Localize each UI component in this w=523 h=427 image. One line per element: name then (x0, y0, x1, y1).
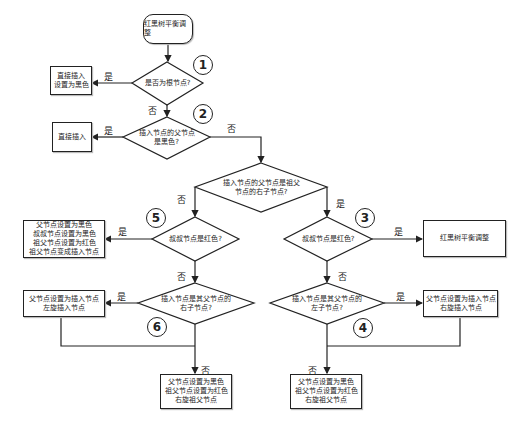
action-rotate-grandparent-right-branch: 父节点设置为黑色 祖父节点设置为红色 右旋祖父节点 (290, 374, 362, 409)
action-a5-line4: 祖父节点变成插入节点 (29, 248, 99, 257)
action-aL-line3: 右旋祖父节点 (175, 396, 217, 405)
action-a4-line2: 右旋插入节点 (440, 304, 482, 313)
action-a5-line2: 叔叔节点设置为黑色 (33, 230, 96, 239)
action-aR-line2: 祖父节点设置为红色 (295, 387, 358, 396)
step-marker-3: 3 (355, 208, 375, 228)
action-a3-line1: 红黑树平衡调整 (440, 234, 489, 243)
edge-label-no-d3: 否 (338, 270, 347, 283)
step-marker-5: 5 (146, 208, 166, 228)
action-a6-line1: 父节点设置为插入节点 (29, 295, 99, 304)
decision-d4-label: 插入节点是其父节点的 左子节点? (270, 295, 384, 313)
action-a2-line1: 直接插入 (58, 133, 86, 142)
edge-label-yes-d1: 是 (104, 70, 113, 83)
edge-label-no-d2: 否 (227, 122, 236, 135)
edge-label-yes-d4: 是 (396, 290, 405, 303)
edge-label-no-d5: 否 (177, 270, 186, 283)
edge-label-yes-dc: 是 (336, 197, 345, 210)
action-rebalance-right: 红黑树平衡调整 (423, 220, 506, 257)
start-label: 红黑树平衡调整 (144, 20, 192, 38)
decision-d2-label: 插入节点的父节点 是黑色? (123, 129, 210, 147)
decision-d5-label: 叔叔节点是红色? (152, 235, 239, 244)
action-aL-line2: 祖父节点设置为红色 (165, 387, 228, 396)
action-a5-line1: 父节点设置为黑色 (36, 221, 92, 230)
decision-d2-line1: 插入节点的父节点 (123, 129, 210, 138)
action-rotate-right-insert: 父节点设置为插入节点 右旋插入节点 (423, 290, 498, 317)
edge-label-yes-d3: 是 (394, 225, 403, 238)
decision-dc-label: 插入节点的父节点是祖父 节点的右子节点? (195, 179, 327, 197)
decision-d4-line1: 插入节点是其父节点的 (270, 295, 384, 304)
edge-label-yes-d6: 是 (117, 290, 126, 303)
action-rotate-left-insert: 父节点设置为插入节点 左旋插入节点 (23, 290, 105, 317)
action-a1-line1: 直接插入 (57, 72, 85, 81)
step-marker-1: 1 (193, 55, 213, 75)
action-a6-line2: 左旋插入节点 (43, 304, 85, 313)
decision-d6-label: 插入节点是其父节点的 右子节点? (138, 295, 254, 313)
action-insert-set-black: 直接插入 设置为黑色 (50, 66, 92, 95)
decision-dc-line1: 插入节点的父节点是祖父 (195, 179, 327, 188)
decision-d3-label: 叔叔节点是红色? (284, 235, 372, 244)
decision-d1-label: 是否为根节点? (132, 79, 203, 88)
action-aR-line3: 右旋祖父节点 (305, 396, 347, 405)
step-marker-6: 6 (147, 317, 167, 337)
decision-d6-line1: 插入节点是其父节点的 (138, 295, 254, 304)
decision-d2-line2: 是黑色? (123, 138, 210, 147)
action-recolor-uncle-red-left: 父节点设置为黑色 叔叔节点设置为黑色 祖父节点设置为红色 祖父节点变成插入节点 (23, 220, 105, 258)
decision-dc-line2: 节点的右子节点? (195, 188, 327, 197)
action-a1-line2: 设置为黑色 (54, 81, 89, 90)
action-a4-line1: 父节点设置为插入节点 (426, 295, 496, 304)
action-aL-line1: 父节点设置为黑色 (168, 378, 224, 387)
edge-label-yes-d2: 是 (104, 124, 113, 137)
edge-label-no-d4: 否 (308, 364, 317, 377)
edge-label-no-d6: 否 (201, 364, 210, 377)
start-terminator: 红黑树平衡调整 (143, 14, 193, 44)
edge-label-no-d1: 否 (148, 104, 157, 117)
action-aR-line1: 父节点设置为黑色 (298, 378, 354, 387)
step-marker-4: 4 (353, 318, 373, 338)
step-marker-2: 2 (193, 104, 213, 124)
decision-d4-line2: 左子节点? (270, 304, 384, 313)
action-a5-line3: 祖父节点设置为红色 (33, 239, 96, 248)
action-rotate-grandparent-left-branch: 父节点设置为黑色 祖父节点设置为红色 右旋祖父节点 (160, 374, 232, 409)
edge-label-yes-d5: 是 (118, 225, 127, 238)
flowchart-connectors (0, 0, 523, 427)
decision-d6-line2: 右子节点? (138, 304, 254, 313)
action-insert-direct: 直接插入 (52, 122, 92, 152)
edge-label-no-dc: 否 (177, 193, 186, 206)
